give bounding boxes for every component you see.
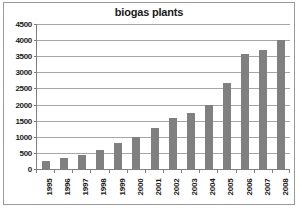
x-label-slot: 2005 xyxy=(217,174,235,208)
bar-series xyxy=(37,24,290,169)
bar-2001[interactable] xyxy=(151,128,159,169)
bar-slot xyxy=(73,24,91,169)
x-label-slot: 2006 xyxy=(236,174,254,208)
x-tick-mark xyxy=(109,169,110,173)
x-axis-label-2004: 2004 xyxy=(208,179,217,196)
bar-1998[interactable] xyxy=(96,150,104,169)
x-tick-mark xyxy=(199,169,200,173)
x-label-slot: 2000 xyxy=(127,174,145,208)
bar-1999[interactable] xyxy=(114,143,122,169)
x-tick-slot xyxy=(145,169,163,173)
x-tick-mark xyxy=(254,169,255,173)
bar-slot xyxy=(254,24,272,169)
x-tick-mark xyxy=(236,169,237,173)
x-tick-slot xyxy=(127,169,145,173)
bar-2005[interactable] xyxy=(223,83,231,169)
x-tick-slot xyxy=(272,169,290,173)
chart-title: biogas plants xyxy=(4,6,294,18)
bar-slot xyxy=(127,24,145,169)
x-tick-mark xyxy=(54,169,55,173)
x-tick-mark xyxy=(90,169,91,173)
x-label-slot: 2004 xyxy=(199,174,217,208)
x-axis-label-2000: 2000 xyxy=(136,179,145,196)
bar-2000[interactable] xyxy=(132,137,140,169)
plot-area: 450040003500300025002000150010005000 xyxy=(36,24,290,169)
bar-2007[interactable] xyxy=(259,50,267,169)
y-tick-label: 3000 xyxy=(15,68,32,77)
x-tick-slot xyxy=(181,169,199,173)
bar-slot xyxy=(272,24,290,169)
plot-area-wrapper: 450040003500300025002000150010005000 xyxy=(36,24,290,169)
bar-1996[interactable] xyxy=(60,158,68,169)
y-tick-label: 2500 xyxy=(15,84,32,93)
x-axis-label-1999: 1999 xyxy=(118,179,127,196)
x-tick-slot xyxy=(254,169,272,173)
x-label-slot: 2001 xyxy=(145,174,163,208)
x-label-slot: 1997 xyxy=(72,174,90,208)
x-tick-mark xyxy=(181,169,182,173)
x-tick-mark xyxy=(289,169,290,173)
y-tick-label: 4000 xyxy=(15,36,32,45)
x-label-slot: 2002 xyxy=(163,174,181,208)
x-tick-slot xyxy=(217,169,235,173)
x-axis-label-1997: 1997 xyxy=(81,179,90,196)
x-axis-labels: 1995199619971998199920002001200220032004… xyxy=(36,174,290,208)
x-label-slot: 2007 xyxy=(254,174,272,208)
x-tick-slot xyxy=(236,169,254,173)
x-tick-slot xyxy=(109,169,127,173)
x-tick-slot xyxy=(163,169,181,173)
y-tick-label: 3500 xyxy=(15,52,32,61)
bar-2006[interactable] xyxy=(241,54,249,169)
y-tick-label: 0 xyxy=(28,165,32,174)
bar-slot xyxy=(182,24,200,169)
x-tick-slot xyxy=(90,169,108,173)
x-tick-mark xyxy=(36,169,37,173)
y-tick-label: 500 xyxy=(20,148,32,157)
x-tick-mark xyxy=(145,169,146,173)
y-tick-label: 1500 xyxy=(15,116,32,125)
bar-1995[interactable] xyxy=(42,161,50,169)
bar-slot xyxy=(164,24,182,169)
x-tick-slot xyxy=(54,169,72,173)
x-label-slot: 1999 xyxy=(109,174,127,208)
x-axis-label-2007: 2007 xyxy=(263,179,272,196)
x-tick-slot xyxy=(72,169,90,173)
bar-slot xyxy=(55,24,73,169)
x-tick-mark xyxy=(272,169,273,173)
y-tick-label: 2000 xyxy=(15,100,32,109)
x-label-slot: 1995 xyxy=(36,174,54,208)
x-axis-label-2001: 2001 xyxy=(154,179,163,196)
x-axis-ticks xyxy=(36,169,290,173)
x-tick-mark xyxy=(72,169,73,173)
x-tick-mark xyxy=(217,169,218,173)
x-axis-label-2006: 2006 xyxy=(245,179,254,196)
x-label-slot: 1998 xyxy=(90,174,108,208)
x-axis-label-2003: 2003 xyxy=(190,179,199,196)
bar-slot xyxy=(218,24,236,169)
x-label-slot: 1996 xyxy=(54,174,72,208)
bar-slot xyxy=(145,24,163,169)
bar-2002[interactable] xyxy=(169,118,177,169)
x-axis-label-2002: 2002 xyxy=(172,179,181,196)
x-axis-label-1995: 1995 xyxy=(45,179,54,196)
bar-slot xyxy=(91,24,109,169)
bar-slot xyxy=(109,24,127,169)
bar-2004[interactable] xyxy=(205,105,213,169)
chart-container: biogas plants 45004000350030002500200015… xyxy=(3,2,295,205)
x-tick-slot xyxy=(36,169,54,173)
y-tick-label: 1000 xyxy=(15,132,32,141)
bar-1997[interactable] xyxy=(78,155,86,170)
x-axis-label-2005: 2005 xyxy=(226,179,235,196)
x-tick-mark xyxy=(163,169,164,173)
x-label-slot: 2008 xyxy=(272,174,290,208)
x-label-slot: 2003 xyxy=(181,174,199,208)
x-axis-label-1998: 1998 xyxy=(99,179,108,196)
x-tick-mark xyxy=(127,169,128,173)
bar-slot xyxy=(236,24,254,169)
x-axis-label-1996: 1996 xyxy=(63,179,72,196)
y-tick-label: 4500 xyxy=(15,20,32,29)
bar-2008[interactable] xyxy=(277,40,285,169)
x-tick-slot xyxy=(199,169,217,173)
x-axis-label-2008: 2008 xyxy=(281,179,290,196)
bar-2003[interactable] xyxy=(187,113,195,169)
